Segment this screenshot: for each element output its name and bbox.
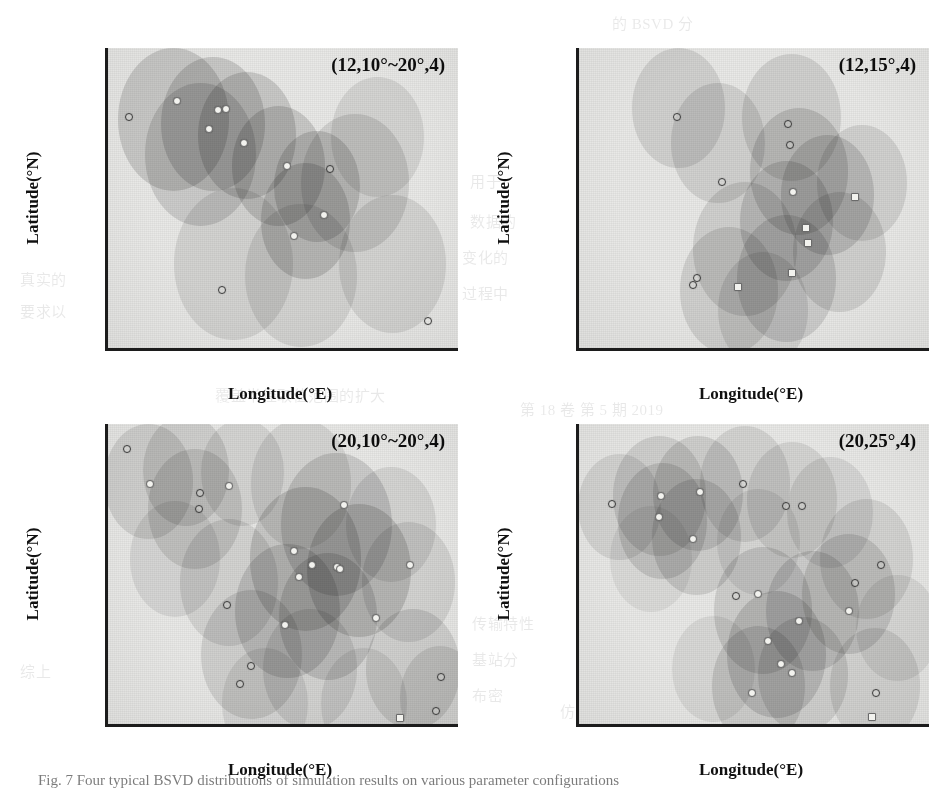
y-tick-major	[576, 506, 579, 508]
base-station-marker	[696, 488, 704, 496]
coverage-disc	[610, 506, 693, 612]
coverage-disc	[856, 575, 929, 681]
base-station-marker	[732, 592, 740, 600]
x-tick-minor	[843, 724, 845, 727]
x-tick-major	[888, 724, 890, 727]
panel-top-right-title: (12,15°,4)	[839, 54, 916, 76]
base-station-marker	[851, 579, 859, 587]
base-station-marker	[764, 637, 772, 645]
panel-bottom-right-title: (20,25°,4)	[839, 430, 916, 452]
base-station-marker	[845, 607, 853, 615]
y-tick-minor	[576, 708, 579, 710]
base-station-marker	[655, 513, 663, 521]
base-station-marker	[748, 689, 756, 697]
base-station-marker	[754, 590, 762, 598]
y-tick-major	[576, 621, 579, 623]
base-station-marker	[868, 713, 876, 721]
base-station-marker	[782, 502, 790, 510]
base-station-marker	[689, 535, 697, 543]
panel-bottom-right: 30.030.531.031.532.0119120121122(20,25°,…	[0, 0, 949, 790]
x-tick-major	[798, 724, 800, 727]
x-tick-minor	[753, 724, 755, 727]
panel-bottom-right-plot-area: 30.030.531.031.532.0119120121122	[576, 424, 929, 727]
base-station-marker	[777, 660, 785, 668]
panel-top-left-title: (12,10°~20°,4)	[331, 54, 445, 76]
base-station-marker	[795, 617, 803, 625]
y-tick-minor	[576, 535, 579, 537]
x-tick-major	[618, 724, 620, 727]
base-station-marker	[798, 502, 806, 510]
y-tick-minor	[576, 477, 579, 479]
base-station-marker	[739, 480, 747, 488]
plot-surface	[579, 424, 929, 724]
x-tick-major	[708, 724, 710, 727]
base-station-marker	[657, 492, 665, 500]
base-station-marker	[788, 669, 796, 677]
panel-bottom-right-x-axis-title: Longitude(°E)	[699, 760, 803, 780]
base-station-marker	[872, 689, 880, 697]
base-station-marker	[608, 500, 616, 508]
x-tick-minor	[663, 724, 665, 727]
y-tick-major	[576, 564, 579, 566]
base-station-marker	[877, 561, 885, 569]
y-tick-major	[576, 679, 579, 681]
panel-bottom-right-y-axis-title: Latitude(°N)	[494, 528, 514, 621]
figure-root: 30.030.531.031.532.0119120121122(12,10°~…	[0, 0, 949, 790]
coverage-disc	[672, 616, 755, 722]
y-tick-minor	[576, 650, 579, 652]
y-tick-major	[576, 448, 579, 450]
y-tick-minor	[576, 593, 579, 595]
panel-bottom-left-title: (20,10°~20°,4)	[331, 430, 445, 452]
